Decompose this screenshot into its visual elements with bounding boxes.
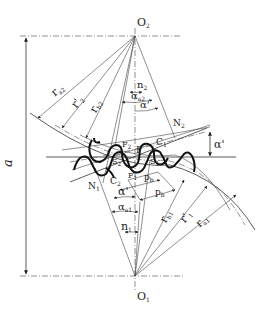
label-alpha-prime-right: α' <box>214 138 224 151</box>
label-rb1: rb1 <box>157 207 175 225</box>
label-alpha-a1: αa1 <box>118 201 132 213</box>
label-o2: O2 <box>137 16 150 29</box>
label-n2: n2 <box>137 79 147 91</box>
label-F2: F2 <box>122 140 132 150</box>
label-S1: S1 <box>150 157 159 167</box>
label-r2-prime: r'2 <box>68 93 86 111</box>
gear-teeth <box>74 138 195 178</box>
label-r1-prime: r'1 <box>177 208 195 226</box>
label-center-distance: a <box>0 159 15 167</box>
label-rb2: rb2 <box>87 97 105 115</box>
label-C1: C1 <box>156 137 167 148</box>
gear-mesh-diagram: O2 O1 a ra2 r'2 rb2 n2 αa2 α' N2 C1 F2 P… <box>0 0 269 309</box>
label-N2: N2 <box>173 118 185 129</box>
label-N1: N1 <box>88 181 100 192</box>
labels: O2 O1 a ra2 r'2 rb2 n2 αa2 α' N2 C1 F2 P… <box>0 16 224 303</box>
label-P: P <box>136 145 142 155</box>
circle-arcs <box>30 113 255 230</box>
label-o1: O1 <box>137 290 150 303</box>
label-alpha-prime-bottom: α' <box>118 185 128 198</box>
label-pb-lower: pb <box>155 187 165 198</box>
label-S2: S2 <box>112 157 121 167</box>
label-n1: n1 <box>121 220 132 233</box>
label-alpha-prime-top: α' <box>140 99 150 110</box>
